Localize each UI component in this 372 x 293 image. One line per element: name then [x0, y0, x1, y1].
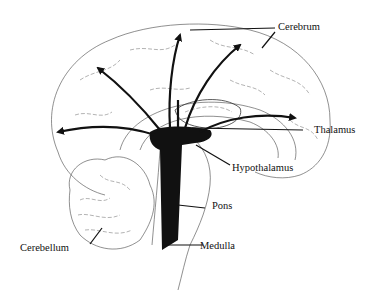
- arrow-upper-left: [98, 68, 160, 130]
- leader-pons: [178, 205, 205, 208]
- label-thalamus: Thalamus: [314, 125, 355, 136]
- leader-cerebrum: [190, 28, 275, 30]
- cerebrum-outline: [51, 24, 330, 178]
- arrow-upper-right: [185, 45, 240, 128]
- label-cerebrum: Cerebrum: [278, 22, 320, 33]
- leader-hypothalamus: [196, 145, 230, 165]
- label-medulla: Medulla: [200, 241, 235, 252]
- thalamus-region: [175, 100, 241, 129]
- reticular-formation: [150, 126, 212, 250]
- label-cerebellum: Cerebellum: [20, 243, 69, 254]
- brainstem-outline: [178, 140, 210, 290]
- leader-cerebellum: [90, 228, 102, 244]
- label-pons: Pons: [212, 201, 232, 212]
- cerebrum-lower-outline: [58, 152, 105, 195]
- arrow-left: [58, 127, 155, 135]
- cerebellum-outline: [69, 157, 154, 249]
- label-hypothalamus: Hypothalamus: [232, 163, 293, 174]
- brain-diagram: Cerebrum Thalamus Hypothalamus Pons Medu…: [0, 0, 372, 293]
